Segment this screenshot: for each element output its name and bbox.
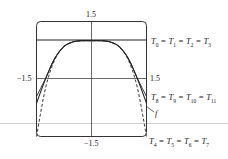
eq-sub: 3 [208, 42, 211, 48]
f-pointer-arrow [146, 106, 154, 112]
left-tick-label: −1.5 [17, 74, 32, 83]
f-label: f [155, 108, 157, 118]
eq-sub: 11 [211, 98, 216, 104]
eq-text: = T [193, 36, 208, 46]
legend-t8-equation: T8 = T9 = T10 = T11 [151, 92, 216, 104]
right-tick-label: 1.5 [150, 74, 160, 83]
eq-text: = T [191, 136, 206, 146]
legend-t0-equation: T0 = T1 = T2 = T3 [151, 36, 211, 48]
eq-text: = T [176, 36, 191, 46]
eq-text: = T [176, 92, 191, 102]
eq-text: = T [158, 92, 173, 102]
eq-text: = T [196, 92, 211, 102]
eq-sub: 7 [206, 142, 209, 148]
eq-text: = T [158, 36, 173, 46]
top-tick-label: 1.5 [86, 10, 96, 19]
eq-text: = T [174, 136, 189, 146]
bottom-tick-label: −1.5 [84, 139, 99, 148]
legend-t4-equation: T4 = T5 = T6 = T7 [149, 136, 209, 148]
eq-text: = T [156, 136, 171, 146]
